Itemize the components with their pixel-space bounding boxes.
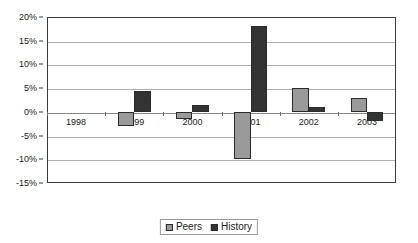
bar-peers-2000	[176, 112, 192, 119]
y-tick-mark	[39, 111, 43, 112]
y-tick-mark	[39, 88, 43, 89]
gridline--15	[48, 184, 395, 185]
bar-peers-2003	[351, 98, 367, 112]
y-tick-label: -15%	[16, 179, 37, 188]
bar-history-1999	[134, 91, 150, 112]
legend-label: Peers	[176, 222, 202, 232]
y-tick-label: 5%	[24, 84, 37, 93]
y-tick-label: 10%	[19, 60, 37, 69]
bar-peers-1999	[118, 112, 134, 126]
legend-swatch-icon	[166, 224, 173, 231]
y-tick-mark	[39, 183, 43, 184]
legend: PeersHistory	[160, 219, 258, 235]
legend-entry-history[interactable]: History	[211, 222, 252, 232]
y-tick-mark	[39, 135, 43, 136]
legend-label: History	[221, 222, 252, 232]
y-tick-label: -5%	[21, 131, 37, 140]
y-tick-mark	[39, 40, 43, 41]
y-tick-mark	[39, 64, 43, 65]
y-tick-label: 15%	[19, 36, 37, 45]
bar-history-2003	[367, 112, 383, 121]
bar-chart: 20%15%10%5%0%-5%-10%-15% 199819992000200…	[0, 0, 418, 243]
bar-history-2000	[192, 105, 208, 112]
bar-peers-2001	[234, 112, 250, 159]
y-tick-label: -10%	[16, 155, 37, 164]
y-axis: 20%15%10%5%0%-5%-10%-15%	[0, 17, 43, 183]
y-tick-label: 20%	[19, 13, 37, 22]
bar-history-2001	[251, 26, 267, 111]
y-tick-label: 0%	[24, 107, 37, 116]
legend-entry-peers[interactable]: Peers	[166, 222, 202, 232]
legend-swatch-icon	[211, 224, 218, 231]
y-tick-mark	[39, 17, 43, 18]
y-tick-mark	[39, 159, 43, 160]
bar-history-2002	[309, 107, 325, 112]
bar-peers-2002	[292, 88, 308, 112]
bars-layer	[47, 17, 396, 183]
